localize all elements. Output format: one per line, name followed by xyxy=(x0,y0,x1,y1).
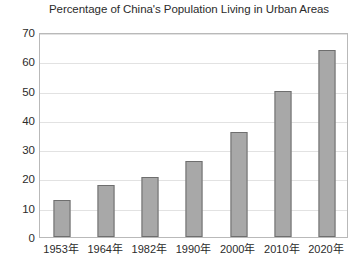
bars-layer xyxy=(40,34,347,237)
y-axis: 706050403020100 xyxy=(0,33,35,238)
plot-area xyxy=(39,33,348,238)
bar xyxy=(230,132,247,237)
bar xyxy=(54,200,71,237)
bar-slot xyxy=(305,34,349,237)
bar xyxy=(318,50,335,237)
y-axis-tick-label: 40 xyxy=(0,115,35,127)
bar-slot xyxy=(261,34,305,237)
bar-slot xyxy=(84,34,128,237)
y-axis-tick-label: 10 xyxy=(0,203,35,215)
bar-slot xyxy=(128,34,172,237)
bar-slot xyxy=(217,34,261,237)
y-axis-tick-label: 50 xyxy=(0,86,35,98)
y-axis-tick-label: 30 xyxy=(0,144,35,156)
x-axis-tick-label: 2020年 xyxy=(296,240,356,256)
chart-title: Percentage of China's Population Living … xyxy=(44,3,334,15)
bar xyxy=(274,91,291,237)
bar xyxy=(186,161,203,237)
y-axis-tick-label: 0 xyxy=(0,232,35,244)
bar xyxy=(142,177,159,237)
y-axis-tick-label: 70 xyxy=(0,27,35,39)
y-axis-tick-label: 20 xyxy=(0,173,35,185)
bar-slot xyxy=(40,34,84,237)
bar xyxy=(98,185,115,237)
y-axis-tick-label: 60 xyxy=(0,56,35,68)
x-axis: 1953年1964年1982年1990年2000年2010年2020年 xyxy=(39,240,348,260)
bar-chart: Percentage of China's Population Living … xyxy=(0,0,363,272)
bar-slot xyxy=(172,34,216,237)
